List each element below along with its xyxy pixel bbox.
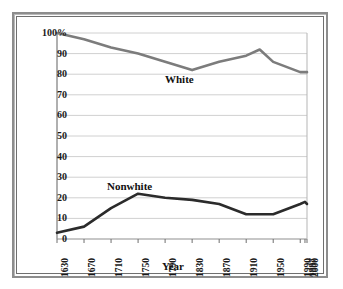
series-annotation-nonwhite: Nonwhite bbox=[107, 180, 152, 192]
figure-frame: 100%9080706050403020100 1630167017101750… bbox=[12, 12, 328, 278]
x-axis-title: Year bbox=[17, 260, 329, 272]
series-annotation-white: White bbox=[165, 73, 194, 85]
figure-inner-border: 100%9080706050403020100 1630167017101750… bbox=[16, 16, 324, 274]
x-axis-tick-labels: 1630167017101750179018301870191019501990… bbox=[17, 17, 329, 279]
line-chart: 100%9080706050403020100 1630167017101750… bbox=[17, 17, 329, 279]
